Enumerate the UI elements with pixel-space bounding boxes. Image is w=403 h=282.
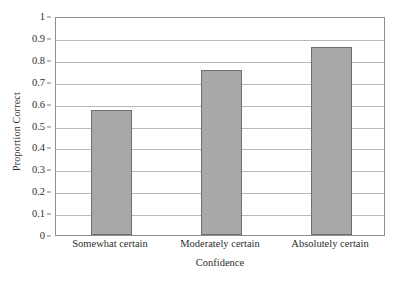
y-tick-label: 0.1 — [32, 209, 45, 220]
y-tick-mark — [47, 170, 51, 171]
y-tick-label: 0.3 — [32, 165, 45, 176]
y-tick-label: 0.6 — [32, 99, 45, 110]
x-tick-label: Moderately certain — [180, 239, 260, 250]
y-tick-mark — [47, 17, 51, 18]
bar-chart-figure: 00.10.20.30.40.50.60.70.80.91 Proportion… — [0, 0, 403, 282]
y-tick-label: 1 — [40, 12, 45, 23]
y-tick-mark — [47, 214, 51, 215]
bar — [201, 70, 242, 235]
plot-area — [55, 17, 385, 236]
y-tick-label: 0.9 — [32, 34, 45, 45]
bar — [311, 47, 352, 235]
y-tick-label: 0.8 — [32, 56, 45, 67]
y-axis-title: Proportion Correct — [11, 72, 22, 192]
x-axis-tick-labels: Somewhat certainModerately certainAbsolu… — [55, 239, 385, 255]
y-tick-mark — [47, 60, 51, 61]
x-axis-title: Confidence — [55, 258, 385, 269]
y-tick-mark — [47, 148, 51, 149]
y-axis-tick-labels: 00.10.20.30.40.50.60.70.80.91 — [0, 17, 51, 236]
y-tick-label: 0.2 — [32, 187, 45, 198]
y-tick-label: 0 — [40, 231, 45, 242]
y-tick-label: 0.7 — [32, 77, 45, 88]
y-tick-label: 0.5 — [32, 121, 45, 132]
y-tick-mark — [47, 104, 51, 105]
x-tick-label: Absolutely certain — [291, 239, 368, 250]
y-tick-mark — [47, 192, 51, 193]
y-tick-mark — [47, 82, 51, 83]
y-tick-mark — [47, 126, 51, 127]
x-tick-label: Somewhat certain — [72, 239, 148, 250]
bar — [91, 110, 132, 235]
y-tick-label: 0.4 — [32, 143, 45, 154]
y-tick-mark — [47, 38, 51, 39]
gridline — [56, 40, 384, 41]
y-tick-mark — [47, 236, 51, 237]
